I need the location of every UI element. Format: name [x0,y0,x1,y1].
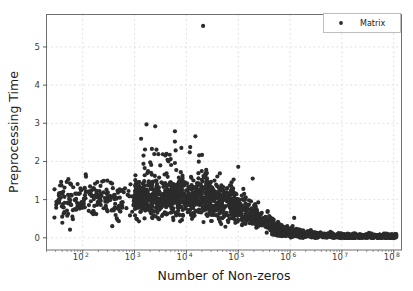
svg-text:4: 4 [189,251,193,258]
chart-canvas: 102103104105106107108 012345 Number of N… [0,0,413,291]
svg-text:10: 10 [332,252,343,262]
figure-background [0,0,413,291]
legend-label-matrix: Matrix [360,19,385,28]
scatter-plot-figure: 102103104105106107108 012345 Number of N… [0,0,413,291]
svg-text:3: 3 [35,118,40,128]
svg-text:10: 10 [228,252,239,262]
svg-text:10: 10 [73,252,84,262]
svg-text:10: 10 [176,252,187,262]
legend[interactable]: Matrix [324,14,401,33]
svg-text:2: 2 [85,251,89,258]
svg-text:7: 7 [344,251,348,258]
svg-text:0: 0 [35,233,40,243]
svg-text:10: 10 [384,252,395,262]
svg-text:3: 3 [137,251,141,258]
svg-text:2: 2 [35,156,40,166]
x-axis-label: Number of Non-zeros [158,268,291,283]
svg-text:10: 10 [125,252,136,262]
y-axis-label: Preprocessing Time [6,71,21,193]
svg-text:1: 1 [35,195,40,205]
svg-text:5: 5 [35,42,40,52]
svg-text:8: 8 [396,251,400,258]
svg-text:6: 6 [292,251,296,258]
svg-text:4: 4 [35,80,40,90]
svg-text:5: 5 [241,251,245,258]
legend-marker-matrix [339,21,343,25]
svg-text:10: 10 [280,252,291,262]
